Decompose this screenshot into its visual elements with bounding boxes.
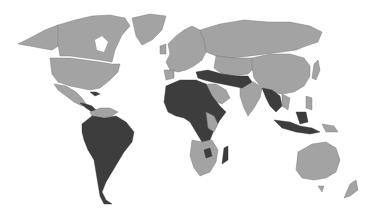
region-papua bbox=[322, 124, 338, 132]
region-caribbean bbox=[90, 92, 100, 96]
region-madagascar bbox=[222, 146, 228, 164]
region-iberia bbox=[164, 70, 174, 80]
region-australia bbox=[296, 142, 340, 180]
region-uk bbox=[160, 44, 166, 54]
region-tasmania bbox=[318, 186, 324, 192]
region-russia bbox=[200, 20, 322, 58]
region-philippines bbox=[306, 96, 312, 110]
region-new-zealand bbox=[344, 180, 358, 198]
region-indonesia bbox=[274, 120, 320, 134]
region-alaska bbox=[18, 25, 62, 50]
region-greenland bbox=[132, 14, 166, 45]
region-europe bbox=[166, 26, 206, 72]
world-map bbox=[0, 0, 391, 220]
region-canada bbox=[58, 15, 130, 62]
region-south-america bbox=[82, 116, 134, 204]
region-borneo bbox=[296, 112, 308, 124]
region-vietnam bbox=[282, 94, 290, 110]
region-central-asia bbox=[214, 56, 256, 76]
region-southern-africa bbox=[190, 140, 218, 176]
region-japan bbox=[312, 60, 320, 80]
